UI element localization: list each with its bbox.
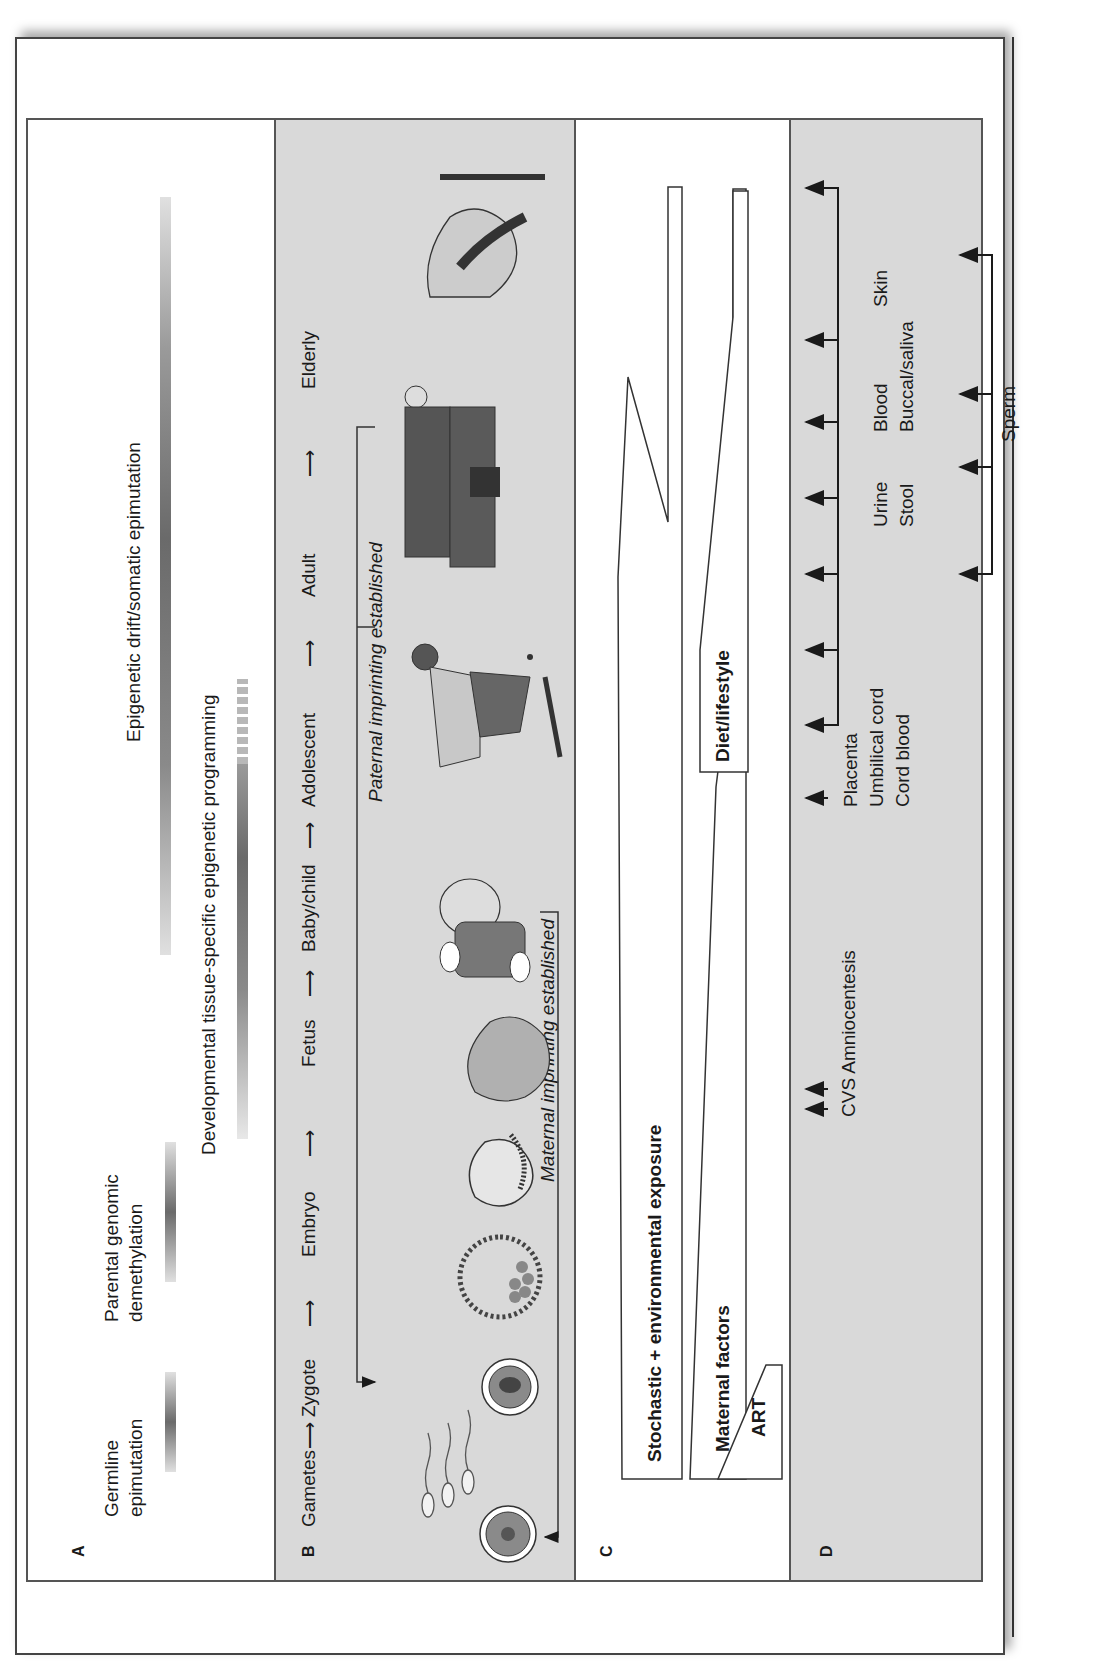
panel-d-arrows [0, 0, 1097, 1667]
cvs-amniocentesis-label: CVS Amniocentesis [838, 950, 860, 1117]
figure-canvas: A Germline epimutation Parental genomic … [0, 0, 1097, 1667]
birth-samples-label: Placenta Umbilical cord Cord blood [838, 688, 916, 807]
stool-label: Stool [896, 484, 918, 527]
sperm-label: Sperm [998, 386, 1020, 442]
buccal-saliva-label: Buccal/saliva [896, 321, 918, 432]
urine-label: Urine [870, 482, 892, 527]
skin-label: Skin [870, 270, 892, 307]
blood-label: Blood [870, 383, 892, 432]
